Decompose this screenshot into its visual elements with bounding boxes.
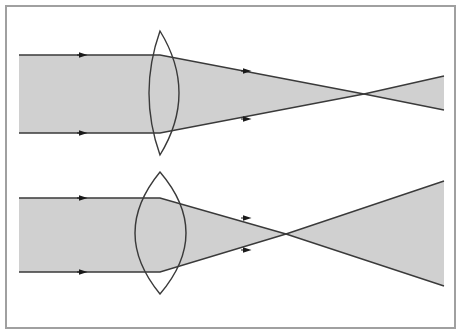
optics-figure (0, 0, 461, 334)
top-incoming-beam-fill (19, 55, 160, 133)
figure-background (0, 0, 461, 334)
ray-diagram-canvas (0, 0, 461, 334)
